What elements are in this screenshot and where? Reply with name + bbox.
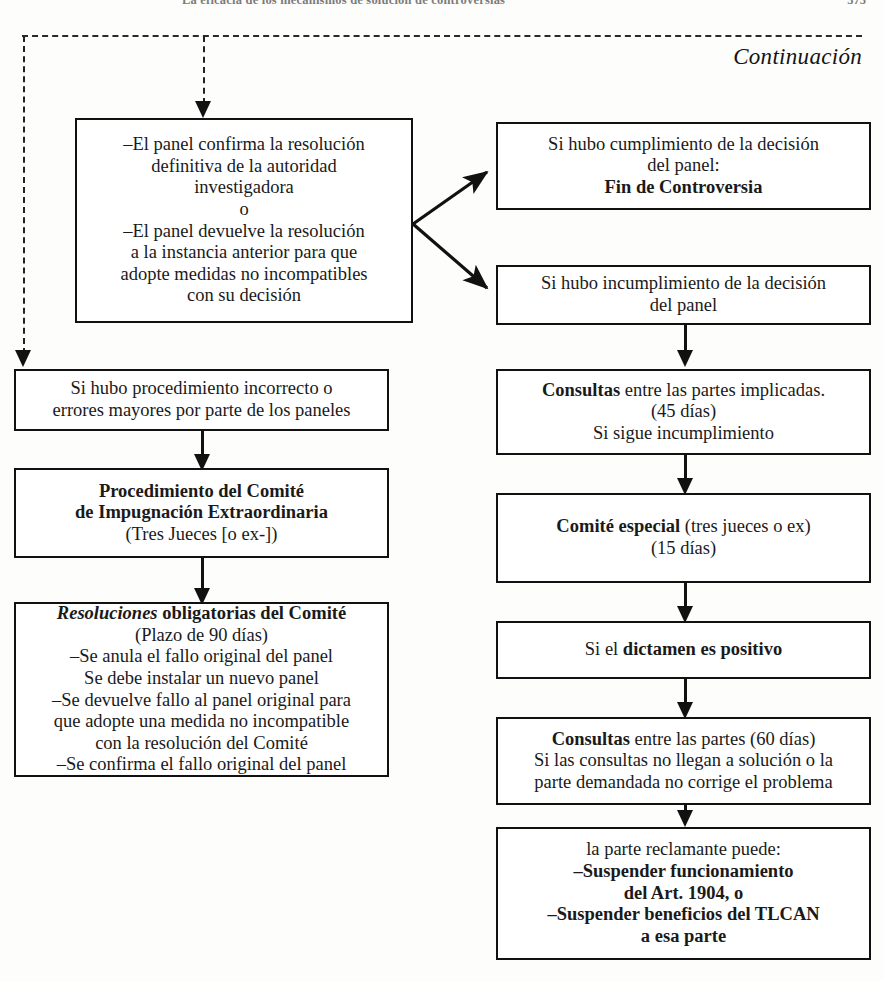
node-comite-impugnacion[interactable]: Procedimiento del Comité de Impugnación …: [14, 468, 389, 558]
node-fin-controversia-text: Si hubo cumplimiento de la decisión del …: [506, 134, 861, 199]
node-incumplimiento-text: Si hubo incumplimiento de la decisión de…: [506, 273, 861, 316]
connector-comite-to-resoluciones: [201, 558, 204, 590]
node-incumplimiento[interactable]: Si hubo incumplimiento de la decisión de…: [496, 265, 871, 325]
node-panel-confirma[interactable]: –El panel confirma la resolución definit…: [75, 118, 413, 323]
node-comite-impugnacion-text: Procedimiento del Comité de Impugnación …: [24, 481, 379, 546]
node-resoluciones-text: Resoluciones obligatorias del Comité (Pl…: [24, 603, 379, 776]
node-comite-especial-text: Comité especial (tres jueces o ex) (15 d…: [506, 516, 861, 559]
node-resoluciones[interactable]: Resoluciones obligatorias del Comité (Pl…: [14, 602, 389, 777]
flowchart-page: La eficacia de los mecanismos de solució…: [0, 0, 884, 981]
node-fin-controversia[interactable]: Si hubo cumplimiento de la decisión del …: [496, 122, 871, 210]
node-dictamen-positivo[interactable]: Si el dictamen es positivo: [496, 621, 871, 679]
node-comite-especial[interactable]: Comité especial (tres jueces o ex) (15 d…: [496, 493, 871, 583]
node-consultas-45[interactable]: Consultas entre las partes implicadas. (…: [496, 369, 871, 455]
arrowhead-suspension: [677, 810, 693, 827]
node-suspension[interactable]: la parte reclamante puede: –Suspender fu…: [496, 827, 871, 960]
node-consultas-45-text: Consultas entre las partes implicadas. (…: [506, 380, 861, 445]
node-procedimiento-incorrecto[interactable]: Si hubo procedimiento incorrecto o error…: [14, 369, 389, 431]
node-suspension-text: la parte reclamante puede: –Suspender fu…: [506, 839, 861, 947]
arrowhead-consultas45: [677, 350, 693, 367]
node-consultas-60-text: Consultas entre las partes (60 días) Si …: [506, 729, 861, 794]
node-dictamen-positivo-text: Si el dictamen es positivo: [506, 639, 861, 661]
node-procedimiento-incorrecto-text: Si hubo procedimiento incorrecto o error…: [24, 378, 379, 421]
node-consultas-60[interactable]: Consultas entre las partes (60 días) Si …: [496, 717, 871, 805]
node-panel-confirma-text: –El panel confirma la resolución definit…: [85, 134, 403, 307]
